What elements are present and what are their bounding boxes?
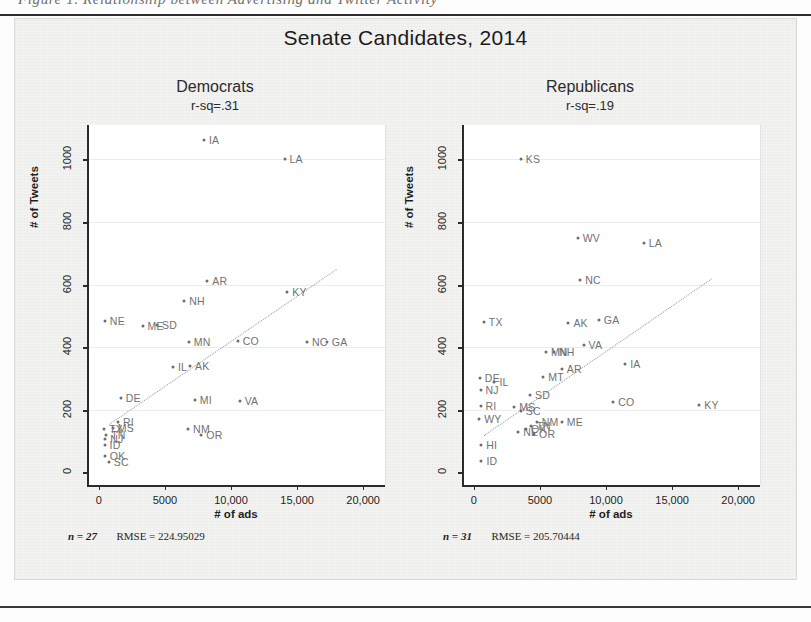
data-point-label: DE bbox=[126, 392, 141, 404]
panel-republicans: Republicans r-sq=.19 02004006008001000KS… bbox=[405, 78, 775, 573]
data-point bbox=[519, 410, 522, 413]
x-tick bbox=[99, 485, 100, 490]
plot-right-edge bbox=[760, 125, 761, 485]
data-point bbox=[103, 428, 106, 431]
top-rule bbox=[0, 14, 811, 16]
x-axis-title: # of ads bbox=[87, 508, 385, 520]
y-tick-label: 400 bbox=[61, 332, 73, 360]
x-tick bbox=[738, 485, 739, 490]
y-tick bbox=[458, 285, 464, 287]
data-point-label: WY bbox=[484, 413, 501, 425]
y-tick bbox=[458, 347, 464, 349]
y-tick-label: 200 bbox=[436, 395, 448, 423]
panel-title: Democrats bbox=[30, 78, 400, 96]
data-point-label: NH bbox=[559, 346, 575, 358]
x-tick bbox=[540, 485, 541, 490]
data-point-label: KS bbox=[526, 153, 540, 165]
y-tick-label: 0 bbox=[61, 457, 73, 485]
data-point-label: VA bbox=[589, 339, 603, 351]
x-tick-label: 0 bbox=[471, 494, 477, 506]
x-axis-democrats: 0500010,00015,00020,000 bbox=[87, 485, 385, 487]
data-point bbox=[141, 324, 144, 327]
data-point bbox=[552, 350, 555, 353]
data-point bbox=[478, 376, 481, 379]
x-tick bbox=[672, 485, 673, 490]
data-point-label: MT bbox=[548, 371, 564, 383]
data-point bbox=[525, 427, 528, 430]
y-tick bbox=[83, 222, 89, 224]
data-point bbox=[183, 299, 186, 302]
data-point-label: MI bbox=[200, 394, 212, 406]
data-point bbox=[306, 340, 309, 343]
data-point-label: ID bbox=[110, 439, 121, 451]
panel-democrats: Democrats r-sq=.31 02004006008001000IALA… bbox=[30, 78, 400, 573]
scatter-plot-republicans: 02004006008001000KSWVLANCTXAKGAVAMNNHARI… bbox=[462, 125, 760, 485]
data-point bbox=[642, 242, 645, 245]
data-point-label: LA bbox=[290, 153, 303, 165]
x-tick-label: 15,000 bbox=[280, 494, 314, 506]
data-point-label: GA bbox=[332, 336, 348, 348]
panel-rsq: r-sq=.19 bbox=[405, 98, 775, 113]
data-point bbox=[156, 324, 159, 327]
data-point-label: ME bbox=[567, 416, 583, 428]
chart-title: Senate Candidates, 2014 bbox=[0, 26, 811, 50]
y-tick-label: 800 bbox=[61, 207, 73, 235]
data-point bbox=[202, 139, 205, 142]
data-point bbox=[582, 344, 585, 347]
data-point-label: KY bbox=[704, 399, 718, 411]
data-point bbox=[612, 401, 615, 404]
data-point bbox=[189, 365, 192, 368]
data-point bbox=[567, 321, 570, 324]
y-axis-title: # of Tweets bbox=[28, 166, 40, 228]
data-point bbox=[286, 291, 289, 294]
data-point bbox=[560, 421, 563, 424]
data-point-label: SC bbox=[114, 456, 129, 468]
data-point bbox=[238, 400, 241, 403]
y-gridline bbox=[464, 222, 760, 223]
data-point-label: IL bbox=[178, 361, 187, 373]
data-point bbox=[104, 437, 107, 440]
y-tick bbox=[458, 159, 464, 161]
data-point bbox=[624, 363, 627, 366]
data-point bbox=[105, 433, 108, 436]
data-point-label: AK bbox=[573, 317, 587, 329]
data-point bbox=[544, 350, 547, 353]
data-point bbox=[283, 158, 286, 161]
y-tick-label: 600 bbox=[61, 270, 73, 298]
y-tick bbox=[83, 285, 89, 287]
data-point-label: VA bbox=[245, 395, 259, 407]
x-tick-label: 5000 bbox=[528, 494, 552, 506]
data-point-label: GA bbox=[604, 314, 620, 326]
data-point bbox=[103, 443, 106, 446]
data-point-label: WV bbox=[583, 232, 600, 244]
data-point bbox=[103, 455, 106, 458]
x-tick bbox=[297, 485, 298, 490]
y-tick bbox=[458, 222, 464, 224]
y-tick bbox=[83, 472, 89, 474]
data-point bbox=[576, 236, 579, 239]
plot-right-edge bbox=[385, 125, 386, 485]
data-point bbox=[478, 418, 481, 421]
data-point bbox=[206, 279, 209, 282]
data-point bbox=[529, 393, 532, 396]
y-tick bbox=[458, 410, 464, 412]
data-point-label: CO bbox=[618, 396, 634, 408]
data-point-label: OR bbox=[206, 429, 222, 441]
data-point bbox=[579, 278, 582, 281]
data-point bbox=[480, 443, 483, 446]
figure-caption-cropped: Figure 1. Relationship between Advertisi… bbox=[18, 0, 718, 11]
panel-footnote: n = 27 RMSE = 224.95029 bbox=[68, 530, 205, 542]
data-point-label: NC bbox=[585, 274, 601, 286]
x-tick bbox=[363, 485, 364, 490]
data-point bbox=[493, 380, 496, 383]
y-tick-label: 400 bbox=[436, 332, 448, 360]
data-point bbox=[517, 431, 520, 434]
x-tick bbox=[474, 485, 475, 490]
data-point-label: IL bbox=[499, 376, 508, 388]
data-point-label: NH bbox=[189, 295, 205, 307]
y-tick-label: 600 bbox=[436, 270, 448, 298]
x-tick-label: 0 bbox=[96, 494, 102, 506]
data-point-label: RI bbox=[486, 400, 497, 412]
y-gridline bbox=[89, 285, 385, 286]
data-point-label: OK bbox=[531, 423, 547, 435]
